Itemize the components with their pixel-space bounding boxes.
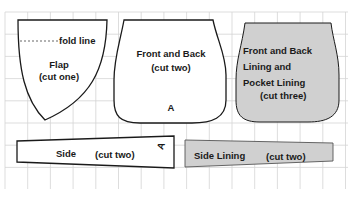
side-lining-cut: (cut two) (266, 151, 306, 162)
fold-line-label: fold line (59, 35, 95, 46)
flap-name: Flap (49, 59, 69, 70)
lining-cut: (cut three) (260, 90, 306, 101)
front-back-cut: (cut two) (151, 62, 191, 73)
lining-name-line-1: Front and Back (243, 45, 313, 56)
piece-flap: fold line Flap (cut one) (18, 20, 107, 120)
pattern-diagram: fold line Flap (cut one) Front and Back … (0, 0, 353, 198)
piece-lining: Front and Back Lining and Pocket Lining … (236, 23, 339, 122)
piece-side: Side (cut two) A (17, 136, 174, 168)
lining-name-line-3: Pocket Lining (243, 77, 305, 88)
front-back-name: Front and Back (136, 48, 206, 59)
front-back-marker: A (168, 102, 175, 113)
piece-front-back: Front and Back (cut two) A (114, 20, 226, 123)
flap-cut: (cut one) (39, 71, 79, 82)
side-name: Side (56, 148, 76, 159)
side-lining-name: Side Lining (194, 150, 245, 161)
lining-name-line-2: Lining and (243, 61, 291, 72)
lining-outline (236, 23, 339, 122)
piece-side-lining: Side Lining (cut two) (185, 140, 333, 167)
side-cut: (cut two) (95, 149, 135, 160)
